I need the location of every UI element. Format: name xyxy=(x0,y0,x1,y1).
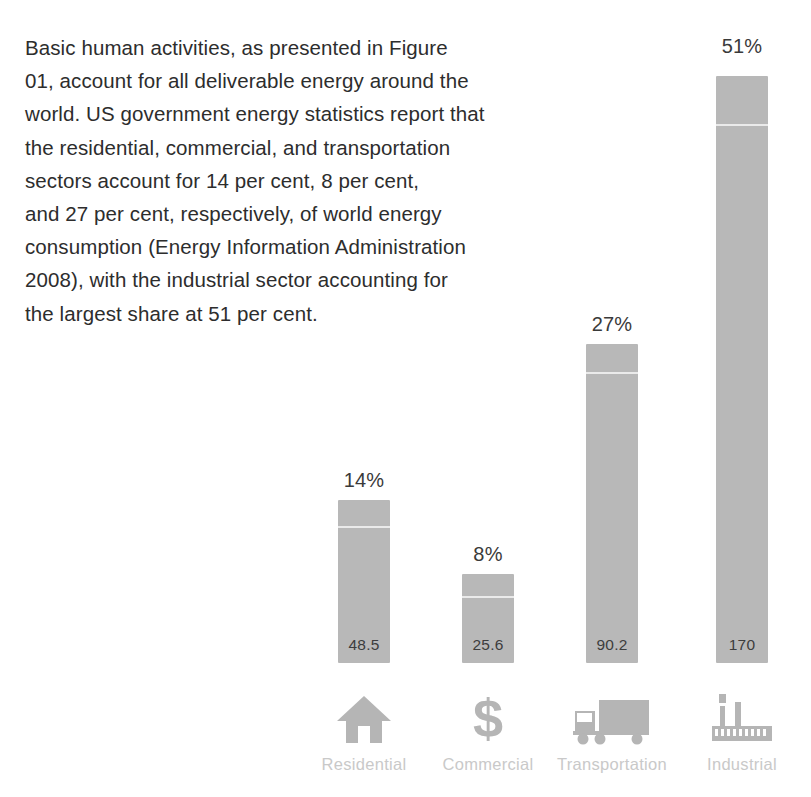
bar-group-industrial: 51% 170 xyxy=(0,0,120,797)
value-label-residential: 48.5 xyxy=(338,636,390,654)
value-label-transportation: 90.2 xyxy=(586,636,638,654)
icon-commercial-wrap: $ xyxy=(428,683,548,745)
bar-chart: 14% 48.5 Residential 8% 25.6 $ xyxy=(0,0,811,797)
bar-seam-transportation xyxy=(586,372,638,374)
bar-residential[interactable]: 48.5 xyxy=(338,500,390,663)
bar-transportation[interactable]: 90.2 xyxy=(586,344,638,663)
percent-label-residential: 14% xyxy=(304,469,424,492)
percent-label-transportation: 27% xyxy=(552,313,672,336)
percent-label-industrial: 51% xyxy=(682,35,802,58)
bar-commercial[interactable]: 25.6 xyxy=(462,574,514,663)
category-label-industrial: Industrial xyxy=(662,755,811,774)
bar-industrial[interactable]: 170 xyxy=(716,76,768,663)
dollar-sign-icon: $ xyxy=(467,691,509,745)
icon-residential-wrap xyxy=(304,683,424,745)
svg-text:$: $ xyxy=(473,691,503,745)
factory-icon xyxy=(711,693,773,745)
value-label-industrial: 170 xyxy=(716,636,768,654)
bar-seam-commercial xyxy=(462,596,514,598)
icon-industrial-wrap xyxy=(682,683,802,745)
figure-page: Basic human activities, as presented in … xyxy=(0,0,811,797)
bar-seam-industrial xyxy=(716,124,768,126)
value-label-commercial: 25.6 xyxy=(462,636,514,654)
percent-label-commercial: 8% xyxy=(428,543,548,566)
bar-seam-residential xyxy=(338,526,390,528)
icon-transportation-wrap xyxy=(552,683,672,745)
house-icon xyxy=(336,693,392,745)
truck-icon xyxy=(573,697,651,745)
